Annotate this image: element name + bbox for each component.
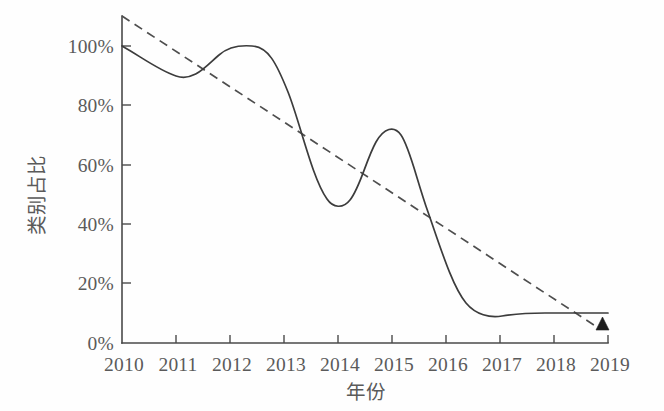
trend-arrowhead-icon: [596, 317, 609, 330]
line-chart-plot: 100% 80% 60% 40% 20% 0% 2010 2011 2012 2…: [0, 0, 664, 411]
y-tick-label-0: 0%: [88, 333, 114, 354]
y-axis-title: 类别占比: [27, 155, 48, 235]
y-tick-label-60: 60%: [78, 155, 114, 176]
y-tick-label-100: 100%: [68, 36, 114, 57]
axes-group: [122, 16, 608, 343]
x-tick-label-2011: 2011: [158, 354, 197, 375]
x-axis-title: 年份: [346, 382, 386, 403]
x-tick-label-2012: 2012: [212, 354, 252, 375]
x-tick-label-2018: 2018: [536, 354, 576, 375]
x-tick-label-2019: 2019: [590, 354, 630, 375]
y-tick-label-40: 40%: [78, 214, 114, 235]
y-tick-labels: 100% 80% 60% 40% 20% 0%: [68, 36, 114, 354]
x-tick-label-2013: 2013: [266, 354, 306, 375]
chart-container: 100% 80% 60% 40% 20% 0% 2010 2011 2012 2…: [0, 0, 664, 411]
x-tick-labels: 2010 2011 2012 2013 2014 2015 2016 2017 …: [104, 354, 630, 375]
x-tick-label-2010: 2010: [104, 354, 144, 375]
x-tick-label-2014: 2014: [320, 354, 360, 375]
x-tick-label-2017: 2017: [482, 354, 522, 375]
x-tick-label-2016: 2016: [428, 354, 468, 375]
y-tick-marks: [122, 46, 131, 283]
y-tick-label-20: 20%: [78, 273, 114, 294]
y-tick-label-80: 80%: [78, 95, 114, 116]
category-share-curve: [122, 46, 608, 317]
trend-line-dashed: [122, 16, 600, 329]
x-tick-label-2015: 2015: [374, 354, 414, 375]
x-tick-marks: [176, 335, 608, 343]
